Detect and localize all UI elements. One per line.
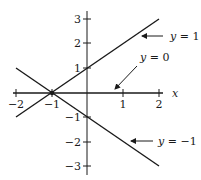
x-tick-label: 2	[156, 98, 163, 111]
x-tick-label: 1	[120, 98, 127, 111]
label-y-equals-neg-1: y = −1	[157, 135, 197, 148]
x-tick-label: −2	[8, 98, 24, 111]
y-tick-label: −1	[65, 111, 81, 124]
y-tick-label: 2	[74, 37, 81, 50]
slope-field-diagram: −2 −1 1 2 x 3 2 1 −1 −2 −3 y = 1 y = 0 y…	[0, 0, 201, 180]
label-y-equals-1: y = 1	[169, 30, 199, 43]
y-tick-label: −2	[65, 136, 81, 149]
intersection-point	[50, 91, 54, 95]
x-tick-label: −1	[44, 98, 60, 111]
label-y-equals-0: y = 0	[139, 51, 169, 64]
y-tick-label: −3	[65, 160, 81, 173]
y-tick-label: 3	[74, 13, 81, 26]
arrow-y-equals-0	[115, 66, 137, 89]
x-axis-label: x	[172, 87, 179, 100]
